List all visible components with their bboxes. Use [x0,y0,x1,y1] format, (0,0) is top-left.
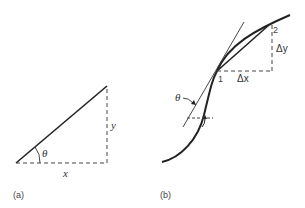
y-label: y [110,119,116,131]
curve [162,15,290,162]
dy-label: Δy [276,43,288,54]
point-1-label: 1 [218,74,223,84]
figure: θ x y (a) θ 1 2 Δx Δy (b) [0,0,305,208]
theta-leader [183,98,193,103]
caption-a: (a) [13,190,24,200]
panel-b: θ 1 2 Δx Δy (b) [160,15,290,200]
secant-chord [217,25,269,71]
theta-label-b: θ [175,91,181,103]
caption-b: (b) [160,190,171,200]
angle-arc [35,147,40,163]
dx-label: Δx [237,73,249,84]
point-2-label: 2 [273,25,278,35]
hypotenuse-line [16,86,107,163]
theta-leader-arrowhead [191,100,196,105]
tangent-line [183,22,244,127]
x-label: x [62,167,68,179]
theta-label-a: θ [42,147,48,159]
panel-a: θ x y (a) [13,86,116,200]
